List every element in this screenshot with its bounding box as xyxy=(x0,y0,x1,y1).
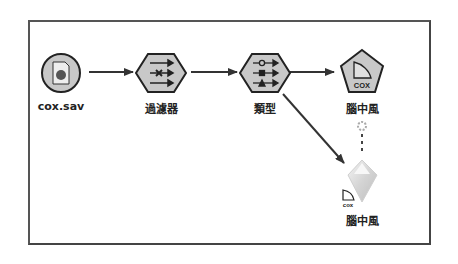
node-label-type: 類型 xyxy=(225,100,305,116)
node-filter[interactable] xyxy=(136,54,186,92)
link-model-nugget-dashed xyxy=(358,122,366,152)
node-label-cox-model: 腦中風 xyxy=(322,100,402,116)
node-source[interactable] xyxy=(42,54,80,92)
node-cox-nugget[interactable]: cox xyxy=(343,160,377,208)
node-type[interactable] xyxy=(240,54,290,92)
spss-file-icon xyxy=(53,62,69,84)
node-label-filter: 過濾器 xyxy=(121,100,201,116)
svg-text:cox: cox xyxy=(343,202,354,208)
svg-text:COX: COX xyxy=(354,81,370,90)
node-label-source: cox.sav xyxy=(21,100,101,113)
node-cox-model[interactable]: COX xyxy=(341,50,383,92)
node-label-cox-nugget: 腦中風 xyxy=(322,212,402,228)
cox-nugget-badge-icon: cox xyxy=(343,190,354,208)
gear-connector-icon xyxy=(358,122,366,130)
